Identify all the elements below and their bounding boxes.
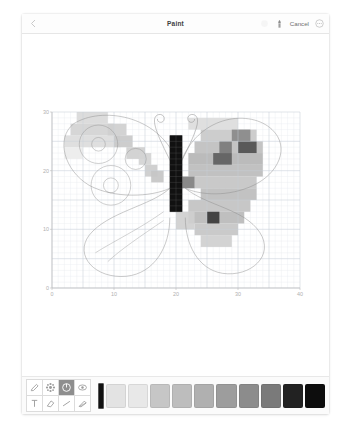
- line-icon: [61, 398, 72, 409]
- x-tick-label: 40: [297, 291, 303, 297]
- pixel-cell[interactable]: [182, 177, 194, 189]
- brush-icon[interactable]: [275, 19, 284, 28]
- color-swatch-6[interactable]: [239, 384, 259, 408]
- fill-icon: [77, 398, 88, 409]
- pixel-cell[interactable]: [213, 153, 232, 165]
- tool-text[interactable]: [27, 396, 42, 411]
- pixel-grid-plot[interactable]: 0102030400102030: [38, 108, 306, 302]
- power-icon: [61, 382, 72, 393]
- more-circle-glyph-icon: [315, 19, 324, 28]
- pixel-cell[interactable]: [151, 171, 163, 183]
- pixel-cell[interactable]: [64, 147, 83, 159]
- tool-pen[interactable]: [27, 380, 42, 395]
- x-tick-label: 30: [235, 291, 241, 297]
- current-color-swatch[interactable]: [98, 383, 104, 409]
- tool-eye[interactable]: [75, 380, 90, 395]
- share-icon[interactable]: [260, 19, 269, 28]
- tool-grid: [26, 379, 91, 412]
- tool-line[interactable]: [59, 396, 74, 411]
- pen-icon: [29, 382, 40, 393]
- paint-canvas-area[interactable]: 0102030400102030: [22, 34, 329, 376]
- color-swatch-0[interactable]: [106, 384, 126, 408]
- tool-fill[interactable]: [75, 396, 90, 411]
- y-tick-label: 10: [43, 226, 49, 232]
- color-palette: [95, 383, 325, 409]
- paint-app-window: Paint Cancel: [22, 14, 329, 414]
- cancel-button[interactable]: Cancel: [290, 20, 309, 27]
- tool-eraser[interactable]: [43, 396, 58, 411]
- title-bar-actions: Cancel: [260, 14, 324, 33]
- pixel-cell[interactable]: [77, 112, 108, 124]
- pixel-cell[interactable]: [207, 212, 219, 224]
- brush-glyph-icon: [275, 19, 284, 29]
- y-tick-label: 20: [43, 168, 49, 174]
- y-tick-label: 30: [43, 109, 49, 115]
- grid-pattern-icon: [45, 382, 56, 393]
- x-tick-label: 10: [111, 291, 117, 297]
- eye-icon: [77, 382, 88, 393]
- color-swatch-1[interactable]: [128, 384, 148, 408]
- color-swatch-7[interactable]: [261, 384, 281, 408]
- pixel-cell[interactable]: [232, 130, 251, 142]
- color-swatch-3[interactable]: [172, 384, 192, 408]
- butterfly-pixel-chart[interactable]: 0102030400102030: [38, 108, 306, 302]
- pixel-cell[interactable]: [195, 177, 257, 189]
- x-tick-label: 0: [51, 291, 54, 297]
- tool-pattern[interactable]: [43, 380, 58, 395]
- pixel-cell[interactable]: [188, 118, 238, 130]
- color-swatch-8[interactable]: [283, 384, 303, 408]
- y-tick-label: 0: [46, 285, 49, 291]
- tool-power[interactable]: [59, 380, 74, 395]
- color-swatch-9[interactable]: [305, 384, 325, 408]
- text-icon: [29, 398, 40, 409]
- color-swatch-2[interactable]: [150, 384, 170, 408]
- pixel-cell[interactable]: [201, 235, 232, 247]
- pixel-cell[interactable]: [219, 141, 231, 153]
- bottom-toolbar: [22, 376, 329, 414]
- title-bar: Paint Cancel: [22, 14, 329, 34]
- color-swatch-5[interactable]: [216, 384, 236, 408]
- pixel-cell[interactable]: [238, 141, 257, 153]
- color-swatch-4[interactable]: [194, 384, 214, 408]
- x-tick-label: 20: [173, 291, 179, 297]
- pixel-cell[interactable]: [201, 188, 257, 200]
- more-circle-icon[interactable]: [315, 19, 324, 28]
- eraser-icon: [45, 398, 56, 409]
- pixel-cell[interactable]: [71, 124, 114, 136]
- share-glyph-icon: [260, 19, 269, 28]
